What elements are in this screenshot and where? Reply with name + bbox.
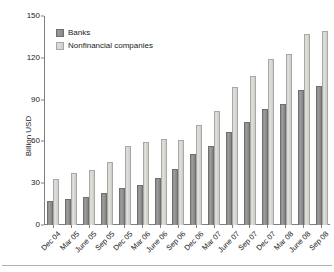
x-label-slot: Sep 07 <box>243 229 256 269</box>
x-label-slot: June 08 <box>297 229 310 269</box>
x-label-slot: Dec 07 <box>261 229 274 269</box>
bar-nonfinancial[interactable] <box>268 59 274 225</box>
x-tick-label: Sep 05 <box>94 230 116 252</box>
x-tick-label: Sep 08 <box>308 230 330 252</box>
legend-swatch-icon <box>56 29 64 37</box>
bar-nonfinancial[interactable] <box>250 76 256 225</box>
bar-nonfinancial[interactable] <box>214 111 220 225</box>
bar-group[interactable] <box>262 16 274 225</box>
bar-group[interactable] <box>316 16 328 225</box>
bar-group[interactable] <box>244 16 256 225</box>
chart-legend: BanksNonfinancial companies <box>56 28 153 54</box>
bar-nonfinancial[interactable] <box>322 31 328 225</box>
x-label-slot: Sep 05 <box>101 229 114 269</box>
bar-nonfinancial[interactable] <box>304 34 310 225</box>
legend-label: Nonfinancial companies <box>68 41 153 50</box>
bar-group[interactable] <box>226 16 238 225</box>
bar-nonfinancial[interactable] <box>161 139 167 225</box>
bar-nonfinancial[interactable] <box>143 142 149 225</box>
bar-nonfinancial[interactable] <box>196 125 202 225</box>
bar-nonfinancial[interactable] <box>178 140 184 225</box>
legend-item-nonfin[interactable]: Nonfinancial companies <box>56 41 153 50</box>
x-tick-label: Dec 04 <box>40 230 62 252</box>
x-label-slot: June 05 <box>83 229 96 269</box>
x-label-slot: Dec 04 <box>47 229 60 269</box>
bar-group[interactable] <box>155 16 167 225</box>
bar-nonfinancial[interactable] <box>125 146 131 225</box>
x-label-slot: Dec 05 <box>118 229 131 269</box>
bar-nonfinancial[interactable] <box>89 170 95 225</box>
footer-divider <box>2 265 332 266</box>
bar-group[interactable] <box>208 16 220 225</box>
legend-label: Banks <box>68 28 90 37</box>
x-tick-label: Dec 06 <box>183 230 205 252</box>
bar-group[interactable] <box>298 16 310 225</box>
x-label-slot: June 07 <box>226 229 239 269</box>
bar-group[interactable] <box>280 16 292 225</box>
x-label-slot: June 06 <box>154 229 167 269</box>
x-axis-labels: Dec 04Mar 05June 05Sep 05Dec 05Mar 06Jun… <box>44 229 330 269</box>
x-label-slot: Sep 08 <box>315 229 328 269</box>
bar-nonfinancial[interactable] <box>232 87 238 225</box>
x-label-slot: Sep 06 <box>172 229 185 269</box>
bar-nonfinancial[interactable] <box>286 54 292 225</box>
bar-nonfinancial[interactable] <box>71 173 77 225</box>
legend-item-banks[interactable]: Banks <box>56 28 153 37</box>
bar-group[interactable] <box>172 16 184 225</box>
x-label-slot: Dec 06 <box>190 229 203 269</box>
bar-group[interactable] <box>190 16 202 225</box>
chart-figure: Billion USD 0306090120150 Dec 04Mar 05Ju… <box>0 0 334 272</box>
bar-nonfinancial[interactable] <box>53 179 59 225</box>
bar-nonfinancial[interactable] <box>107 162 113 225</box>
legend-swatch-icon <box>56 42 64 50</box>
